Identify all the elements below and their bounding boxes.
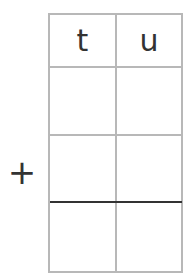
column-header-units: u	[117, 16, 181, 66]
cell-row1-units[interactable]	[117, 68, 181, 134]
cell-row2-tens[interactable]	[50, 136, 115, 201]
cell-row2-units[interactable]	[117, 136, 181, 201]
cell-answer-tens[interactable]	[50, 203, 115, 271]
grid-top-border	[48, 13, 183, 15]
column-header-tens: t	[50, 16, 115, 66]
cell-answer-units[interactable]	[117, 203, 181, 271]
cell-row1-tens[interactable]	[50, 68, 115, 134]
addition-grid: t u +	[0, 0, 196, 279]
grid-bottom-border	[49, 271, 183, 273]
plus-operator: +	[8, 155, 36, 189]
grid-right-border	[181, 13, 183, 273]
